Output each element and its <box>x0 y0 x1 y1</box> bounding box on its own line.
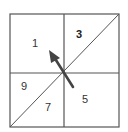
grid-diagram: 1 3 9 7 5 <box>0 0 128 132</box>
region-label-3: 3 <box>76 28 82 40</box>
region-label-9: 9 <box>21 80 27 92</box>
region-label-7: 7 <box>45 101 51 113</box>
region-label-1: 1 <box>32 37 38 49</box>
region-label-5: 5 <box>82 93 88 105</box>
arrow-up-left-icon <box>49 50 73 87</box>
